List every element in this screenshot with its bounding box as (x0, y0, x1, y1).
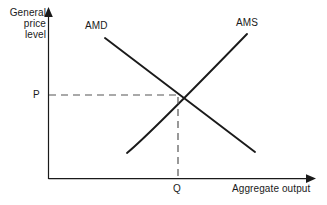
y-axis-title: Generalpricelevel (0, 7, 46, 40)
amd-curve-label: AMD (85, 20, 108, 31)
y-axis-title-line-2: price (24, 18, 46, 29)
x-axis-arrow-icon (306, 174, 316, 183)
equilibrium-quantity-label: Q (173, 183, 181, 194)
ad-as-diagram: Generalpricelevel Aggregate output P Q A… (0, 0, 327, 205)
ams-curve (127, 34, 247, 153)
x-axis-title: Aggregate output (232, 183, 310, 194)
y-axis-title-line-3: level (25, 29, 46, 40)
equilibrium-price-label: P (33, 89, 40, 100)
y-axis-title-line-1: General (10, 7, 46, 18)
ams-curve-label: AMS (236, 17, 258, 28)
diagram-canvas (0, 0, 327, 205)
